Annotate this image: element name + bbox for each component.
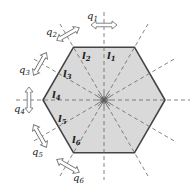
q2-label: q2	[46, 26, 57, 39]
q1-label: q1	[87, 10, 98, 23]
q3-double-arrow-icon	[30, 51, 50, 78]
q4-label: q4	[14, 103, 25, 116]
center-point	[97, 93, 111, 107]
q6-label: q6	[73, 172, 84, 185]
q3-label: q3	[19, 64, 30, 77]
q5-label: q5	[32, 146, 43, 159]
hexagon-diagram: q1 q2 q3 q4 q5 q6 l1 l2 l3 l4 l5 l6	[0, 0, 196, 195]
q2-double-arrow-icon	[55, 24, 82, 44]
